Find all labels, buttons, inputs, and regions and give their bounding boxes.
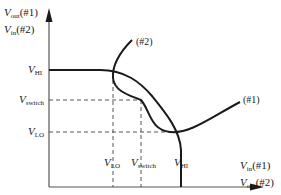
y-axis-label-line1: Vout(#1) — [4, 7, 38, 20]
y-tick-vswitch: Vswitch — [19, 94, 44, 107]
y-tick-vhi: VHI — [28, 64, 42, 77]
curve-2-label: (#2) — [136, 37, 153, 47]
y-tick-vlo: VLO — [28, 126, 44, 139]
x-axis-label-line2: Vout(#2) — [240, 177, 274, 190]
x-tick-vswitch: Vswitch — [131, 157, 156, 170]
y-axis-label-line2: Vin(#2) — [4, 24, 35, 37]
x-axis-label-line1: Vin(#1) — [240, 160, 271, 173]
x-tick-vhi: VHI — [174, 157, 188, 170]
y-axis-arrow-icon — [46, 8, 53, 22]
x-tick-vlo: VLO — [104, 157, 120, 170]
curve-1-label: (#1) — [243, 95, 260, 105]
transfer-curve-2 — [113, 40, 240, 132]
